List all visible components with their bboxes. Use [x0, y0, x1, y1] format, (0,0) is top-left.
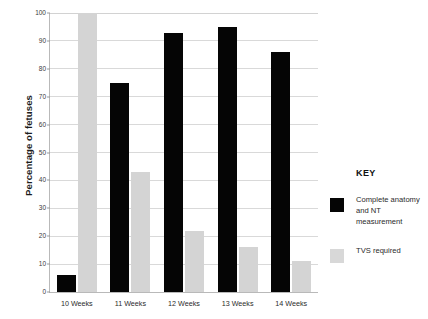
bar	[110, 83, 129, 292]
x-axis-tick-label: 12 Weeks	[154, 299, 214, 308]
bar	[185, 231, 204, 292]
x-axis-tick-label: 13 Weeks	[208, 299, 268, 308]
legend-label-tvs-required: TVS required	[356, 245, 426, 256]
y-axis-tick-label: 0	[42, 289, 46, 296]
y-axis-tick-label: 70	[39, 93, 46, 100]
y-axis-tick-label: 40	[39, 177, 46, 184]
bar-group: 11 Weeks	[104, 13, 158, 292]
y-axis-tick-label: 80	[39, 66, 46, 73]
y-axis-tick-label: 10	[39, 261, 46, 268]
plot-area: 010203040506070809010010 Weeks11 Weeks12…	[49, 13, 318, 293]
bar	[164, 33, 183, 292]
bar	[271, 52, 290, 292]
y-axis-title: Percentage of fetuses	[23, 66, 34, 226]
bar-chart: Percentage of fetuses 010203040506070809…	[0, 0, 428, 319]
bar	[218, 27, 237, 292]
chart-legend: KEY Complete anatomy and NT measurement …	[330, 168, 428, 283]
bar	[78, 13, 97, 292]
bar-group: 13 Weeks	[211, 13, 265, 292]
legend-swatch-black-icon	[330, 198, 344, 212]
legend-item-tvs-required: TVS required	[330, 245, 428, 265]
bar	[239, 247, 258, 292]
x-axis-tick-label: 10 Weeks	[47, 299, 107, 308]
bar	[57, 275, 76, 292]
bar-group: 12 Weeks	[157, 13, 211, 292]
bar	[292, 261, 311, 292]
legend-item-complete-anatomy: Complete anatomy and NT measurement	[330, 194, 428, 227]
legend-swatch-grey-icon	[330, 249, 344, 263]
y-axis-tick-label: 20	[39, 233, 46, 240]
y-axis-tick-label: 30	[39, 205, 46, 212]
x-axis-tick-label: 14 Weeks	[261, 299, 321, 308]
legend-title: KEY	[356, 168, 428, 178]
y-axis-tick-label: 50	[39, 149, 46, 156]
bar	[131, 172, 150, 292]
bar-group: 14 Weeks	[264, 13, 318, 292]
x-axis-tick-label: 11 Weeks	[100, 299, 160, 308]
y-axis-tick-label: 60	[39, 121, 46, 128]
y-axis-tick-label: 90	[39, 38, 46, 45]
legend-label-complete-anatomy: Complete anatomy and NT measurement	[356, 194, 426, 227]
y-axis-tick-label: 100	[35, 10, 46, 17]
bar-group: 10 Weeks	[50, 13, 104, 292]
